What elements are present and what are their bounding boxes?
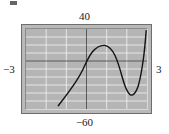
calculator-screen-frame [21, 24, 152, 114]
axis-label-xmax: 3 [156, 64, 162, 75]
plot-area [26, 29, 147, 109]
axis-label-ymax: 40 [0, 11, 169, 22]
crop-artifact-mark [10, 1, 17, 5]
calculator-screen [25, 28, 148, 110]
plot-svg [26, 29, 147, 109]
figure-graph: 40 −3 3 −60 [0, 0, 169, 134]
axis-label-xmin: −3 [3, 64, 15, 75]
axis-label-ymin: −60 [0, 117, 169, 128]
